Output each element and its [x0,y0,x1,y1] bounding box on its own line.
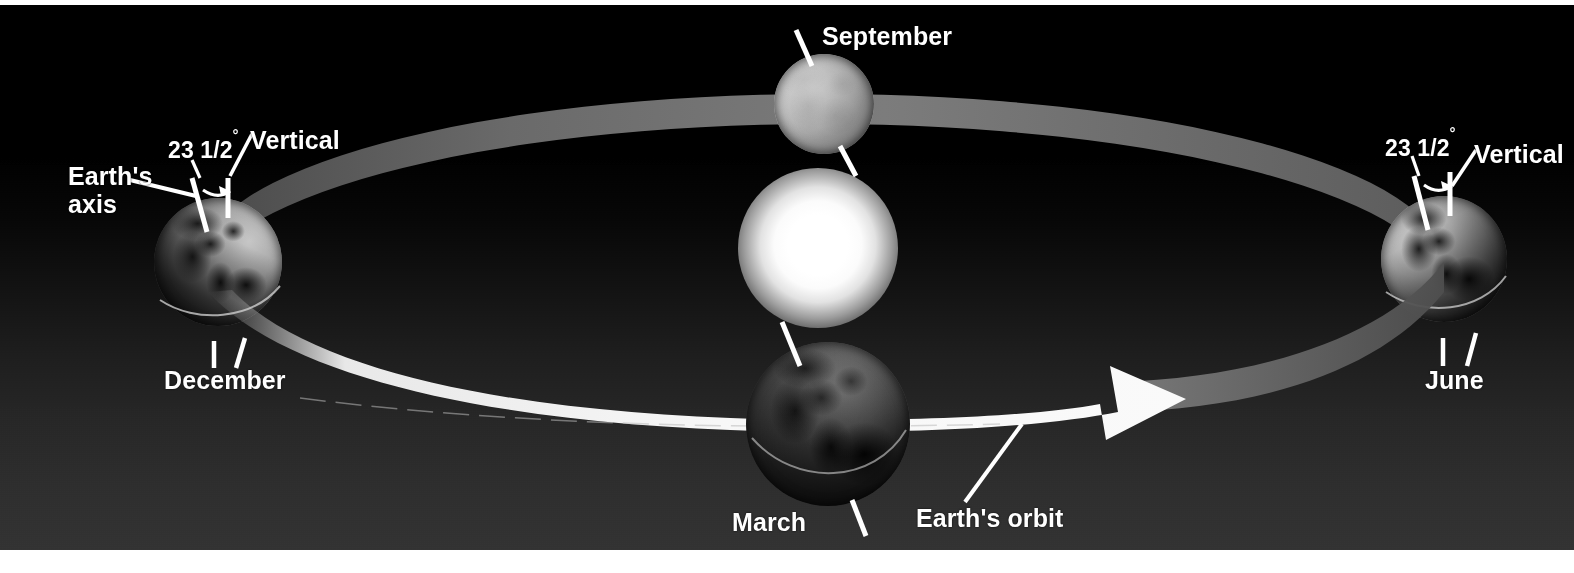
label-earths-orbit: Earth's orbit [916,504,1064,532]
label-vertical-left: Vertical [250,126,340,154]
september-axis-top [796,30,812,66]
label-tilt-right: 23 1/2° [1385,134,1456,161]
label-vertical-right: Vertical [1474,140,1564,168]
tilt-left-value: 23 1/2 [168,137,233,163]
december-tick-axis [236,338,245,368]
june-tick-axis [1467,333,1476,366]
label-march: March [732,508,806,536]
label-tilt-left: 23 1/2° [168,136,239,163]
label-december: December [164,366,286,394]
tilt-left-degree-symbol: ° [233,126,239,143]
label-june: June [1425,366,1484,394]
earths-axis-text: Earth's axis [68,162,152,218]
march-axis-top [782,322,800,366]
page-margin-top [0,0,1574,5]
december-axis-line [192,178,207,232]
earths-orbit-leader [965,424,1022,502]
tilt-right-degree-symbol: ° [1450,124,1456,141]
june-axis-line [1414,176,1428,230]
tilt-right-value: 23 1/2 [1385,135,1450,161]
diagram-canvas: September December March June Earth's ax… [0,0,1574,573]
march-axis-bottom [852,500,866,536]
page-margin-bottom [0,550,1574,573]
label-september: September [822,22,952,50]
september-axis-bottom [840,146,856,176]
annotation-lines-layer [0,0,1574,573]
label-earths-axis: Earth's axis [68,162,152,218]
